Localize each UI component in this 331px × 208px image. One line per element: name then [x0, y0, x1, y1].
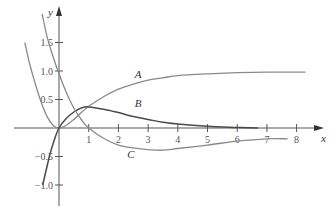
curve-c	[42, 14, 288, 150]
x-tick-label: 1	[86, 134, 91, 145]
curve-b-label: B	[135, 97, 142, 109]
x-axis-label: x	[320, 132, 326, 144]
y-axis-label: y	[47, 6, 53, 18]
chart-canvas: x y 12345678 1.51.00.5−0.5−1.0 A B C	[0, 0, 331, 208]
x-tick-label: 2	[116, 134, 121, 145]
x-ticks: 12345678	[86, 124, 299, 145]
curve-c-label: C	[127, 148, 135, 160]
axes: x y	[14, 6, 326, 206]
y-tick-label: 1.0	[41, 66, 54, 77]
y-tick-label: 1.5	[41, 37, 54, 48]
x-tick-label: 3	[146, 134, 151, 145]
x-tick-label: 5	[205, 134, 210, 145]
y-axis-arrow-icon	[56, 6, 62, 16]
x-tick-label: 8	[294, 134, 299, 145]
curves	[25, 14, 306, 185]
x-tick-label: 6	[235, 134, 240, 145]
y-tick-label: 0.5	[41, 94, 54, 105]
x-tick-label: 4	[175, 134, 180, 145]
curve-a	[25, 43, 306, 129]
curve-a-label: A	[134, 68, 142, 80]
x-axis-arrow-icon	[314, 125, 324, 131]
